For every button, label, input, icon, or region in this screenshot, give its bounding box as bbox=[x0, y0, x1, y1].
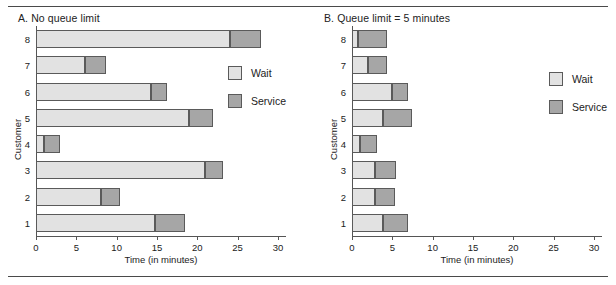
x-tick-label: 25 bbox=[548, 242, 559, 253]
y-tick-label-customer-3: 3 bbox=[25, 165, 30, 176]
y-tick-label-customer-5: 5 bbox=[25, 112, 30, 123]
x-tick-label: 10 bbox=[111, 242, 122, 253]
x-tick bbox=[238, 236, 239, 240]
bar-row bbox=[352, 83, 408, 101]
bar-segment-wait bbox=[352, 188, 375, 206]
bar-segment-service bbox=[383, 109, 412, 127]
y-tick-label-customer-1: 1 bbox=[25, 217, 30, 228]
legend-item-wait: Wait bbox=[549, 72, 607, 86]
legend-item-service: Service bbox=[549, 100, 607, 114]
bar-segment-wait bbox=[36, 135, 44, 153]
x-tick bbox=[278, 236, 279, 240]
bar-row bbox=[36, 161, 223, 179]
x-tick-label: 5 bbox=[390, 242, 395, 253]
bar-segment-wait bbox=[352, 83, 392, 101]
bar-segment-wait bbox=[36, 188, 101, 206]
legend-label-wait: Wait bbox=[251, 67, 272, 79]
bar-segment-wait bbox=[36, 56, 85, 74]
x-tick bbox=[117, 236, 118, 240]
panel-b-x-axis-label: Time (in minutes) bbox=[440, 254, 513, 265]
panel-a: A. No queue limit Customer 0510152025301… bbox=[0, 0, 308, 276]
panel-a-plot-area: 05101520253012345678 bbox=[36, 26, 286, 236]
bar-segment-wait bbox=[36, 161, 205, 179]
x-tick bbox=[433, 236, 434, 240]
bar-row bbox=[352, 161, 396, 179]
panel-a-y-axis-label: Customer bbox=[12, 119, 23, 160]
bar-segment-wait bbox=[352, 109, 383, 127]
legend-swatch-service-icon bbox=[228, 94, 242, 108]
bar-segment-service bbox=[392, 83, 408, 101]
legend-item-wait: Wait bbox=[228, 66, 286, 80]
x-tick-label: 20 bbox=[192, 242, 203, 253]
bar-segment-wait bbox=[36, 109, 189, 127]
x-tick-label: 0 bbox=[33, 242, 38, 253]
bar-row bbox=[36, 188, 120, 206]
x-tick-label: 10 bbox=[427, 242, 438, 253]
bar-segment-service bbox=[358, 30, 387, 48]
y-tick-label-customer-4: 4 bbox=[25, 139, 30, 150]
x-tick bbox=[197, 236, 198, 240]
legend-label-service: Service bbox=[572, 101, 607, 113]
bar-row bbox=[36, 214, 185, 232]
y-tick-label-customer-7: 7 bbox=[25, 60, 30, 71]
x-tick bbox=[554, 236, 555, 240]
y-tick-label-customer-8: 8 bbox=[341, 34, 346, 45]
legend-swatch-wait-icon bbox=[549, 72, 563, 86]
legend-item-service: Service bbox=[228, 94, 286, 108]
x-tick-label: 25 bbox=[232, 242, 243, 253]
figure-container: A. No queue limit Customer 0510152025301… bbox=[0, 0, 616, 285]
x-tick-label: 30 bbox=[589, 242, 600, 253]
x-tick bbox=[513, 236, 514, 240]
panel-a-legend: Wait Service bbox=[228, 66, 286, 122]
y-tick-label-customer-6: 6 bbox=[341, 86, 346, 97]
x-tick-label: 5 bbox=[74, 242, 79, 253]
x-tick-label: 30 bbox=[273, 242, 284, 253]
panel-b-title: B. Queue limit = 5 minutes bbox=[324, 12, 450, 24]
panel-a-x-axis-label: Time (in minutes) bbox=[124, 254, 197, 265]
legend-swatch-service-icon bbox=[549, 100, 563, 114]
bar-segment-wait bbox=[352, 135, 360, 153]
bar-segment-wait bbox=[36, 214, 155, 232]
bar-row bbox=[352, 109, 412, 127]
x-tick bbox=[392, 236, 393, 240]
bar-row bbox=[352, 135, 377, 153]
bar-segment-service bbox=[85, 56, 106, 74]
bar-segment-wait bbox=[352, 214, 383, 232]
bar-row bbox=[36, 109, 213, 127]
x-tick bbox=[352, 236, 353, 240]
y-tick-label-customer-6: 6 bbox=[25, 86, 30, 97]
bar-segment-service bbox=[368, 56, 387, 74]
bar-segment-service bbox=[189, 109, 213, 127]
bar-segment-service bbox=[375, 161, 395, 179]
y-tick-label-customer-3: 3 bbox=[341, 165, 346, 176]
bar-segment-service bbox=[230, 30, 261, 48]
bar-row bbox=[36, 30, 261, 48]
bar-row bbox=[352, 214, 408, 232]
bar-segment-service bbox=[205, 161, 223, 179]
panel-a-x-axis bbox=[36, 236, 286, 237]
bar-segment-service bbox=[360, 135, 377, 153]
bar-row bbox=[352, 188, 395, 206]
x-tick bbox=[473, 236, 474, 240]
bar-segment-service bbox=[151, 83, 167, 101]
bar-segment-wait bbox=[36, 30, 230, 48]
bar-segment-service bbox=[44, 135, 60, 153]
x-tick-label: 20 bbox=[508, 242, 519, 253]
bar-row bbox=[36, 83, 167, 101]
legend-label-service: Service bbox=[251, 95, 286, 107]
y-tick-label-customer-7: 7 bbox=[341, 60, 346, 71]
y-tick-label-customer-4: 4 bbox=[341, 139, 346, 150]
x-tick bbox=[157, 236, 158, 240]
bar-segment-wait bbox=[352, 161, 375, 179]
legend-swatch-wait-icon bbox=[228, 66, 242, 80]
bar-segment-service bbox=[101, 188, 120, 206]
bar-segment-service bbox=[383, 214, 407, 232]
panel-b-y-axis-label: Customer bbox=[328, 119, 339, 160]
bottom-rule bbox=[8, 276, 608, 277]
x-tick-label: 15 bbox=[468, 242, 479, 253]
bar-segment-service bbox=[155, 214, 185, 232]
panel-b: B. Queue limit = 5 minutes Customer 0510… bbox=[306, 0, 614, 276]
panel-b-x-axis bbox=[352, 236, 602, 237]
y-tick-label-customer-2: 2 bbox=[25, 191, 30, 202]
x-tick bbox=[36, 236, 37, 240]
